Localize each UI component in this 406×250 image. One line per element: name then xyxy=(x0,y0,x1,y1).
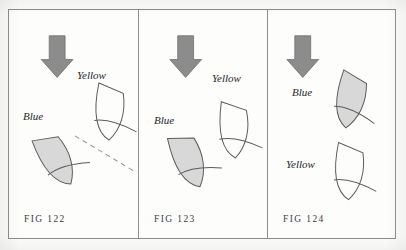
projection-line xyxy=(75,136,136,173)
figure-caption: FIG 122 xyxy=(24,214,66,224)
blue-shape-label: Blue xyxy=(292,86,312,98)
down-arrow xyxy=(170,36,202,78)
blue-shape-label: Blue xyxy=(154,114,174,126)
figure-panel-124: Blue Yellow FIG 124 xyxy=(267,10,395,238)
blue-shape xyxy=(327,70,387,136)
yellow-shape xyxy=(329,142,383,204)
yellow-shape xyxy=(216,102,267,161)
figure-caption: FIG 123 xyxy=(154,214,196,224)
blue-shape xyxy=(32,124,95,192)
down-arrow xyxy=(287,36,319,78)
yellow-shape-label: Yellow xyxy=(286,158,315,170)
yellow-shape-label: Yellow xyxy=(77,69,106,81)
figure-plate: Blue Yellow FIG 122 Blue Yellow FIG xyxy=(0,0,406,250)
figure-panel-123: Blue Yellow FIG 123 xyxy=(138,10,267,238)
panel-3-drawing xyxy=(268,10,395,238)
yellow-shape-label: Yellow xyxy=(212,72,241,84)
panel-1-drawing xyxy=(9,10,138,238)
figure-panel-122: Blue Yellow FIG 122 xyxy=(9,10,138,238)
figure-caption: FIG 124 xyxy=(283,214,325,224)
blue-shape xyxy=(167,128,225,192)
blue-shape-label: Blue xyxy=(23,110,43,122)
down-arrow xyxy=(41,36,73,78)
plate-frame: Blue Yellow FIG 122 Blue Yellow FIG xyxy=(8,9,396,239)
yellow-shape xyxy=(89,83,138,145)
